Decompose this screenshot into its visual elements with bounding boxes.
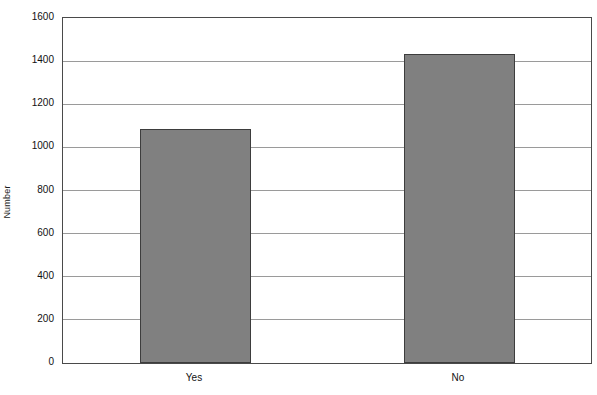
- y-axis-tick-label: 1000: [32, 141, 54, 151]
- y-axis-tick-label: 400: [37, 271, 54, 281]
- bar-no[interactable]: [404, 54, 515, 363]
- bar-chart: Number 02004006008001000120014001600 Yes…: [0, 0, 597, 395]
- x-axis-category-labels: YesNo: [62, 366, 592, 388]
- category-label-yes: Yes: [186, 372, 202, 383]
- y-axis-title-text: Number: [2, 185, 12, 218]
- plot-area: [62, 17, 592, 364]
- bars-layer: [63, 18, 591, 363]
- y-axis-title: Number: [0, 172, 14, 232]
- y-axis-tick-label: 1600: [32, 12, 54, 22]
- y-axis-tick-label: 1400: [32, 55, 54, 65]
- y-axis-tick-label: 600: [37, 228, 54, 238]
- y-axis-tick-label: 200: [37, 314, 54, 324]
- y-axis-tick-label: 800: [37, 185, 54, 195]
- category-label-no: No: [452, 372, 465, 383]
- bar-yes[interactable]: [140, 129, 251, 363]
- y-axis-tick-label: 0: [48, 357, 54, 367]
- y-axis-tick-label: 1200: [32, 98, 54, 108]
- y-axis-tick-labels: 02004006008001000120014001600: [14, 17, 58, 362]
